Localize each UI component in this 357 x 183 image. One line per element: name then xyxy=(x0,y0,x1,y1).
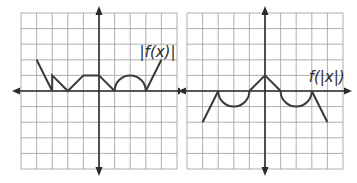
arrow-down-icon xyxy=(96,167,103,176)
arrow-left-icon xyxy=(178,88,186,95)
graph-abs-f-of-x: |f(x)| xyxy=(0,0,180,183)
arrow-up-icon xyxy=(96,6,103,15)
coordinate-plane-left: |f(x)| xyxy=(0,0,180,183)
arrow-right-icon xyxy=(344,88,352,95)
arrow-left-icon xyxy=(12,88,20,95)
arrow-down-icon xyxy=(262,167,269,176)
graph-f-of-abs-x: f(|x|) xyxy=(166,0,357,183)
arrow-up-icon xyxy=(262,6,269,15)
axes xyxy=(178,6,352,176)
axes xyxy=(12,6,180,176)
coordinate-plane-right: f(|x|) xyxy=(166,0,357,183)
function-label: f(|x|) xyxy=(309,68,345,86)
